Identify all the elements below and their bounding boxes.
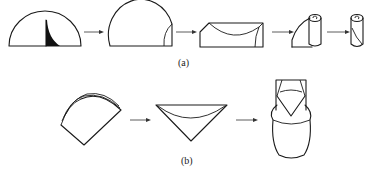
panel-a-label: (a) — [178, 58, 189, 68]
arrow-right-icon — [84, 30, 104, 34]
half-dome-folded-shape — [108, 0, 172, 46]
rolling-sheet-shape — [292, 15, 321, 48]
panel-a — [9, 0, 363, 47]
diagram-canvas — [0, 0, 370, 178]
rolled-cylinder-shape — [351, 15, 363, 47]
arrow-right-icon — [176, 30, 197, 34]
inverted-triangle-shape — [156, 105, 227, 141]
panel-b — [61, 80, 311, 158]
half-dome-shaded-shape — [9, 11, 81, 46]
arrow-right-icon — [130, 118, 151, 122]
arrow-right-icon — [327, 30, 350, 34]
curved-rectangle-shape — [200, 23, 263, 47]
panel-b-label: (b) — [181, 156, 193, 166]
diagram-figure: (a) (b) — [0, 0, 370, 178]
arrow-right-icon — [272, 30, 294, 34]
folded-vessel-shape — [271, 80, 311, 158]
fan-sector-shape — [61, 94, 121, 146]
arrow-right-icon — [236, 118, 258, 122]
